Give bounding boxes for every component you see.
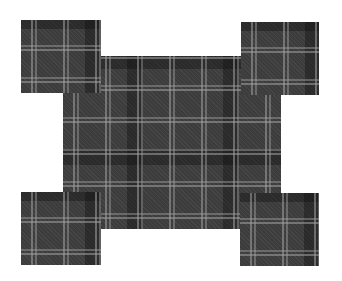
corner-top-left: [21, 20, 101, 93]
plaid-figure: [0, 0, 342, 281]
corner-bottom-right: [240, 193, 319, 266]
corner-bottom-left: [21, 192, 101, 265]
corner-top-right: [241, 22, 319, 95]
